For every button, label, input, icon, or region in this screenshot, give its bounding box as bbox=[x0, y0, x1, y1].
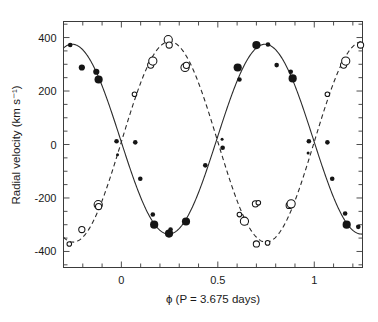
data-point-primary bbox=[68, 43, 73, 48]
data-point-primary bbox=[307, 139, 312, 144]
data-point-primary bbox=[237, 77, 242, 82]
x-axis-label: ϕ (P = 3.675 days) bbox=[166, 293, 260, 305]
figure-background bbox=[0, 0, 378, 322]
data-point-primary bbox=[274, 63, 279, 68]
data-point-primary bbox=[266, 42, 271, 47]
data-point-primary bbox=[289, 74, 297, 82]
data-point-secondary bbox=[342, 57, 350, 65]
x-tick-label: 0 bbox=[118, 274, 124, 286]
data-point-secondary bbox=[166, 42, 172, 48]
data-point-primary bbox=[168, 227, 173, 232]
data-point-primary bbox=[330, 176, 335, 181]
data-point-primary bbox=[343, 211, 348, 216]
data-point-primary bbox=[220, 145, 225, 150]
data-point-primary bbox=[114, 139, 119, 144]
data-point-primary bbox=[203, 163, 208, 168]
data-point-primary bbox=[252, 41, 260, 49]
data-point-secondary bbox=[265, 241, 270, 246]
y-tick-label: 400 bbox=[38, 32, 56, 44]
y-tick-label: 0 bbox=[50, 139, 56, 151]
data-point-secondary bbox=[240, 217, 248, 225]
x-tick-label: 0.5 bbox=[210, 274, 225, 286]
y-tick-label: 200 bbox=[38, 85, 56, 97]
data-point-secondary bbox=[132, 92, 137, 97]
data-point-primary bbox=[150, 221, 158, 229]
data-point-primary bbox=[138, 176, 143, 181]
data-point-primary bbox=[151, 212, 156, 217]
data-point-secondary bbox=[67, 242, 72, 247]
y-tick-label: -200 bbox=[34, 192, 56, 204]
y-tick-label: -400 bbox=[34, 245, 56, 257]
data-point-secondary bbox=[287, 200, 295, 208]
data-point-primary bbox=[307, 152, 310, 155]
data-point-secondary bbox=[149, 57, 157, 65]
data-point-primary bbox=[79, 64, 85, 70]
data-point-secondary bbox=[325, 92, 330, 97]
data-point-primary bbox=[133, 140, 138, 145]
data-point-primary bbox=[116, 153, 119, 156]
data-point-secondary bbox=[237, 212, 242, 217]
data-point-secondary bbox=[253, 241, 259, 247]
data-point-primary bbox=[343, 221, 351, 229]
y-axis-label: Radial velocity (km s⁻¹) bbox=[10, 85, 22, 204]
data-point-primary bbox=[93, 69, 99, 75]
data-point-primary bbox=[221, 138, 224, 141]
data-point-primary bbox=[356, 225, 361, 230]
data-point-primary bbox=[182, 217, 190, 225]
data-point-secondary bbox=[96, 203, 102, 209]
radial-velocity-figure: 00.51-400-2000200400 ϕ (P = 3.675 days) … bbox=[0, 0, 378, 322]
data-point-secondary bbox=[357, 42, 363, 48]
data-point-primary bbox=[95, 75, 103, 83]
data-point-secondary bbox=[183, 62, 189, 68]
radial-velocity-chart: 00.51-400-2000200400 ϕ (P = 3.675 days) … bbox=[0, 0, 378, 322]
data-point-secondary bbox=[79, 226, 85, 232]
data-point-secondary bbox=[256, 200, 261, 205]
data-point-primary bbox=[234, 63, 242, 71]
x-tick-label: 1 bbox=[311, 274, 317, 286]
data-point-primary bbox=[325, 140, 330, 145]
data-point-primary bbox=[288, 69, 293, 74]
